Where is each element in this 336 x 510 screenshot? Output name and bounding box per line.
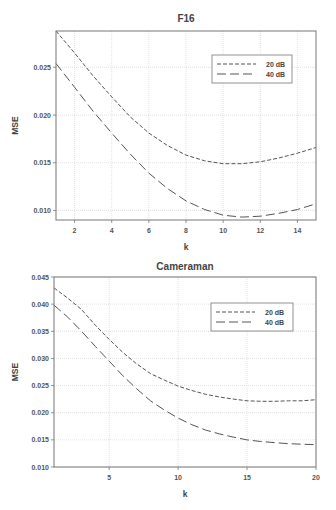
chart-f16: F1624681012140.0100.0150.0200.025kMSE20 … <box>10 13 316 252</box>
y-tick-label: 0.025 <box>33 64 51 71</box>
x-tick-label: 10 <box>174 474 182 481</box>
chart-title: Cameraman <box>156 261 213 272</box>
x-tick-label: 4 <box>110 227 114 234</box>
y-axis-ticks: 0.0100.0150.0200.025 <box>33 64 56 214</box>
y-tick-label: 0.015 <box>31 436 49 443</box>
figure: F1624681012140.0100.0150.0200.025kMSE20 … <box>0 0 336 510</box>
y-tick-label: 0.010 <box>33 207 51 214</box>
y-axis-ticks: 0.0100.0150.0200.0250.0300.0350.0400.045 <box>31 274 54 471</box>
legend: 20 dB40 dB <box>211 303 293 331</box>
legend-label: 40 dB <box>266 71 285 78</box>
x-tick-label: 2 <box>73 227 77 234</box>
x-tick-label: 12 <box>256 227 264 234</box>
x-axis-ticks: 2468101214 <box>73 220 302 234</box>
y-tick-label: 0.045 <box>31 274 49 281</box>
x-tick-label: 6 <box>147 227 151 234</box>
y-tick-label: 0.025 <box>31 382 49 389</box>
x-tick-label: 14 <box>294 227 302 234</box>
y-tick-label: 0.020 <box>33 112 51 119</box>
y-tick-label: 0.020 <box>31 409 49 416</box>
y-tick-label: 0.010 <box>31 464 49 471</box>
x-tick-label: 8 <box>184 227 188 234</box>
x-tick-label: 10 <box>219 227 227 234</box>
y-axis-label: MSE <box>10 362 20 381</box>
chart-title: F16 <box>177 13 195 24</box>
x-axis-label: k <box>183 489 188 499</box>
y-tick-label: 0.030 <box>31 355 49 362</box>
series-line-40db <box>56 64 316 218</box>
legend-label: 20 dB <box>266 61 285 68</box>
legend-label: 20 dB <box>265 309 284 316</box>
chart-cameraman: Cameraman51015200.0100.0150.0200.0250.03… <box>10 261 320 499</box>
x-tick-label: 20 <box>312 474 320 481</box>
x-axis-ticks: 5101520 <box>107 467 320 481</box>
x-tick-label: 5 <box>107 474 111 481</box>
y-axis-label: MSE <box>10 116 20 135</box>
x-tick-label: 15 <box>243 474 251 481</box>
y-tick-label: 0.035 <box>31 328 49 335</box>
y-tick-label: 0.015 <box>33 159 51 166</box>
x-axis-label: k <box>184 242 189 252</box>
legend-label: 40 dB <box>265 319 284 326</box>
legend: 20 dB40 dB <box>212 55 292 83</box>
y-tick-label: 0.040 <box>31 301 49 308</box>
